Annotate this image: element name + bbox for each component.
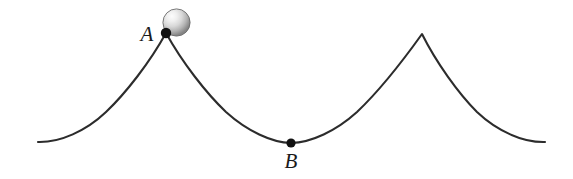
point-b-marker [286,138,295,147]
cycloid-curve [38,33,545,143]
cycloid-figure: A B [0,0,573,179]
point-b-label: B [285,149,298,173]
figure-canvas: A B [0,0,573,179]
point-a-marker [161,28,171,38]
point-a-label: A [139,22,154,46]
